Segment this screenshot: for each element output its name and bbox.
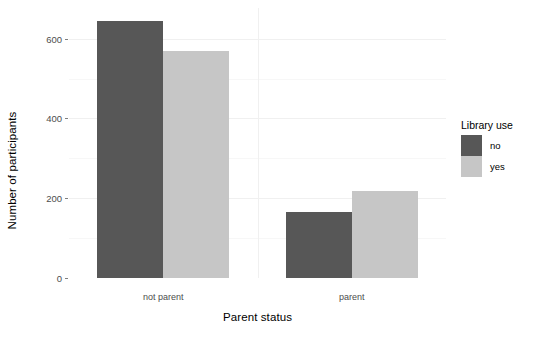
legend-entries: noyes: [461, 135, 549, 177]
bar-parent-yes: [352, 191, 418, 278]
bar-not-parent-yes: [163, 51, 229, 278]
x-tick-label: not parent: [143, 292, 184, 302]
legend: Library use noyes: [461, 119, 549, 177]
bar-not-parent-no: [97, 21, 163, 278]
legend-swatch-icon: [461, 135, 482, 156]
x-axis-title: Parent status: [63, 311, 452, 323]
y-tick-label: 200: [16, 193, 62, 204]
bar-chart-figure: Number of participants 0200400600 not pa…: [0, 0, 553, 341]
y-tick-mark: [65, 278, 68, 279]
legend-item-label: no: [490, 140, 501, 151]
y-axis-tick-labels: 0200400600: [16, 0, 62, 341]
legend-item-yes[interactable]: yes: [461, 156, 549, 177]
y-tick-label: 400: [16, 113, 62, 124]
legend-title: Library use: [461, 119, 549, 131]
legend-item-no[interactable]: no: [461, 135, 549, 156]
y-tick-mark: [65, 198, 68, 199]
y-tick-label: 0: [16, 273, 62, 284]
gridline-major-vertical: [258, 8, 259, 278]
legend-item-label: yes: [490, 161, 505, 172]
y-tick-mark: [65, 39, 68, 40]
bar-parent-no: [286, 212, 352, 278]
y-tick-label: 600: [16, 33, 62, 44]
legend-swatch-icon: [461, 156, 482, 177]
y-tick-mark: [65, 118, 68, 119]
plot-panel: [69, 8, 446, 278]
x-tick-label: parent: [339, 292, 365, 302]
